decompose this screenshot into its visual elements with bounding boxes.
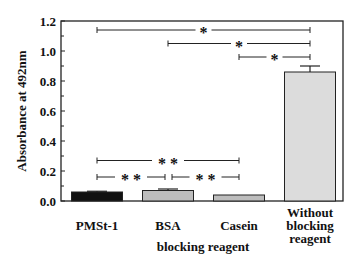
category-label: BSA [155,218,181,233]
bar-0 [72,192,123,201]
category-label: PMSt-1 [76,218,119,233]
x-axis-label: blocking reagent [157,239,250,254]
bar-1 [143,191,194,202]
bar-3 [285,72,336,201]
y-tick-label: 0.8 [40,74,57,89]
y-tick-label: 0.0 [40,194,56,209]
significance-marker: * * [158,155,178,172]
y-tick-label: 0.6 [40,104,57,119]
bar-2 [214,195,265,201]
significance-marker: * * [121,171,141,188]
significance-marker: * * [196,171,216,188]
category-label: reagent [289,231,331,246]
significance-marker: * [235,38,243,55]
y-tick-label: 0.4 [40,134,57,149]
plot-area: 0.00.20.40.60.81.01.2PMSt-1BSACaseinWith… [40,14,343,247]
y-tick-label: 0.2 [40,164,56,179]
y-axis-label: Absorbance at 492nm [14,50,29,172]
bar-chart: 0.00.20.40.60.81.01.2PMSt-1BSACaseinWith… [0,0,359,267]
significance-marker: * [200,24,208,41]
category-label: Casein [220,218,258,233]
significance-marker: * [271,51,279,68]
y-tick-label: 1.2 [40,14,56,29]
y-tick-label: 1.0 [40,44,56,59]
